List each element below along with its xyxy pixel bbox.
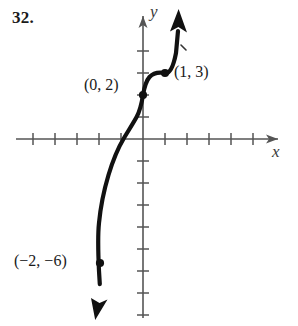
cubic-curve <box>98 31 178 284</box>
point-dot-0-2 <box>139 91 147 99</box>
point-label-0-2: (0, 2) <box>84 76 119 94</box>
point-dot-1-3 <box>161 69 169 77</box>
y-axis-label: y <box>150 2 158 22</box>
point-dot-neg2-neg6 <box>96 259 104 267</box>
coordinate-plane-svg <box>0 0 298 326</box>
point-label-1-3: (1, 3) <box>174 63 209 81</box>
point-label-neg2-neg6: (−2, −6) <box>14 252 67 270</box>
stray-mark <box>181 45 186 50</box>
curve-arrowhead-down <box>91 298 108 320</box>
x-axis-label: x <box>272 142 280 162</box>
